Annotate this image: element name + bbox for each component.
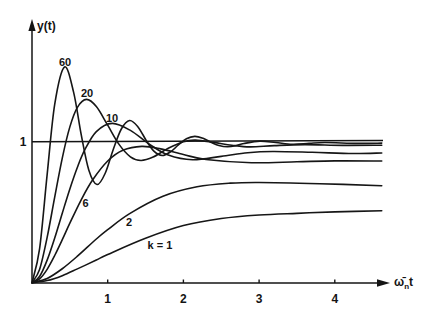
curve-label-k60: 60 bbox=[59, 56, 71, 68]
curve-k6 bbox=[32, 146, 382, 282]
curve-label-k20: 20 bbox=[81, 87, 93, 99]
x-tick-label-3: 3 bbox=[256, 292, 263, 306]
y-tick-label-1: 1 bbox=[20, 135, 27, 149]
y-axis-arrow-icon bbox=[28, 19, 35, 31]
curve-label-k1: k = 1 bbox=[148, 239, 173, 251]
curve-label-k2: 2 bbox=[126, 216, 132, 228]
curve-label-k10: 10 bbox=[106, 112, 118, 124]
x-axis-title: ω̄nt bbox=[394, 275, 413, 291]
curve-k1 bbox=[32, 211, 382, 283]
x-tick-label-2: 2 bbox=[180, 292, 187, 306]
x-tick-label-4: 4 bbox=[331, 292, 338, 306]
curve-label-k6: 6 bbox=[82, 197, 88, 209]
curve-k20 bbox=[32, 99, 382, 282]
x-tick-label-1: 1 bbox=[104, 292, 111, 306]
step-response-figure: 1 2 3 4 1 y(t) ω̄nt 60 20 10 6 2 k = 1 bbox=[0, 0, 435, 321]
curves bbox=[32, 67, 382, 283]
chart-canvas: 1 2 3 4 1 y(t) ω̄nt 60 20 10 6 2 k = 1 bbox=[0, 0, 435, 321]
x-axis-title-t: t bbox=[409, 275, 413, 289]
x-axis-arrow-icon bbox=[377, 279, 390, 287]
y-axis-title: y(t) bbox=[37, 19, 56, 33]
